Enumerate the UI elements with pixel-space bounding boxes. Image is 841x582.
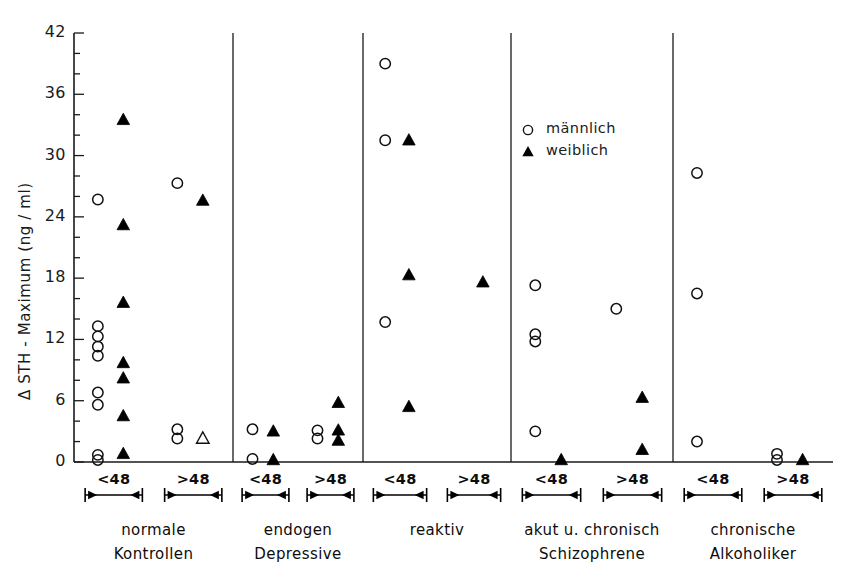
subgroup-range-label: >48 [754,471,832,487]
subgroup-range-label: <48 [75,471,152,487]
data-point-maennlich [611,304,621,314]
legend-label: männlich [546,120,616,136]
data-point-maennlich [692,168,702,178]
data-point-maennlich [772,455,782,465]
data-point-maennlich [93,387,103,397]
data-point-maennlich [530,426,540,436]
data-point-weiblich [555,453,568,464]
subgroup-range-label: >48 [297,471,364,487]
subgroup-range-label: <48 [512,471,590,487]
bracket-arrow-right [810,491,819,499]
data-point-weiblich [117,356,130,367]
plot-canvas [0,0,841,582]
bracket-arrow-right [415,491,424,499]
data-point-maennlich [93,331,103,341]
subgroup-range-label: >48 [437,471,510,487]
data-point-weiblich [117,372,130,383]
data-point-maennlich [172,178,182,188]
bracket-arrow-left [168,491,177,499]
data-point-maennlich [692,436,702,446]
subgroup-range-label: <48 [232,471,299,487]
subgroup-range-label: >48 [593,471,671,487]
data-point-weiblich [197,194,210,205]
data-point-weiblich [117,447,130,458]
data-point-maennlich [380,317,390,327]
data-point-weiblich [117,218,130,229]
subgroup-range-label: <48 [363,471,436,487]
bracket-arrow-left [450,491,459,499]
subgroup-range-label: <48 [674,471,752,487]
y-tick-label: 0 [18,451,66,470]
group-name-label: chronische [643,521,841,539]
data-point-maennlich [380,135,390,145]
y-tick-label: 30 [18,145,66,164]
data-point-weiblich [332,434,345,445]
scatter-plot-figure: 06121824303642Δ STH - Maximum (ng / ml)<… [0,0,841,582]
data-point-weiblich [403,268,416,279]
data-point-maennlich [93,194,103,204]
data-point-weiblich [117,409,130,420]
data-point-weiblich [636,443,649,454]
data-point-weiblich [796,453,809,464]
data-point-weiblich-open [197,432,210,443]
data-point-maennlich [530,336,540,346]
group-name-label: Depressive [188,545,408,563]
data-point-weiblich [267,425,280,436]
group-name-label: Alkoholiker [643,545,841,563]
data-point-weiblich [267,453,280,464]
legend-marker-maennlich [523,125,532,134]
bracket-arrow-right [210,491,219,499]
data-point-weiblich [403,400,416,411]
y-axis-title: Δ STH - Maximum (ng / ml) [16,182,34,400]
bracket-arrow-right [489,491,498,499]
y-tick-label: 42 [18,22,66,41]
data-point-maennlich [247,424,257,434]
subgroup-range-label: >48 [155,471,232,487]
bracket-arrow-left [376,491,385,499]
bracket-arrow-left [767,491,776,499]
data-point-maennlich [93,321,103,331]
bracket-arrow-left [606,491,615,499]
data-point-weiblich [117,296,130,307]
bracket-arrow-right [569,491,578,499]
data-point-weiblich [636,391,649,402]
data-point-weiblich [403,134,416,145]
legend-marker-weiblich [522,146,533,156]
y-tick-label: 36 [18,83,66,102]
bracket-arrow-right [342,491,351,499]
bracket-arrow-right [730,491,739,499]
data-point-maennlich [93,400,103,410]
data-point-weiblich [332,396,345,407]
data-point-maennlich [692,288,702,298]
legend-label: weiblich [546,142,608,158]
data-point-weiblich [477,276,490,287]
data-point-weiblich [117,113,130,124]
data-point-maennlich [772,449,782,459]
bracket-arrow-left [525,491,534,499]
bracket-arrow-right [277,491,286,499]
data-point-maennlich [530,280,540,290]
bracket-arrow-left [310,491,319,499]
data-point-maennlich [380,58,390,68]
bracket-arrow-left [687,491,696,499]
bracket-arrow-left [245,491,254,499]
bracket-arrow-right [650,491,659,499]
bracket-arrow-right [130,491,139,499]
bracket-arrow-left [88,491,97,499]
